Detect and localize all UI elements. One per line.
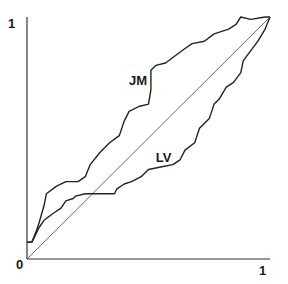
series-lv-line [27, 17, 270, 242]
series-label-jm: JM [129, 73, 147, 88]
chart: 1 0 1 JM LV [0, 0, 288, 284]
series-label-lv: LV [156, 150, 172, 165]
series-jm-line [27, 17, 270, 242]
x-tick-max: 1 [259, 263, 266, 278]
diagonal-reference-line [27, 17, 270, 259]
origin-tick: 0 [16, 257, 23, 272]
y-tick-max: 1 [8, 16, 15, 31]
